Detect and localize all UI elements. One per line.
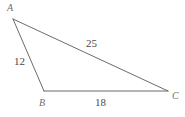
side-length-label-bc: 18 [95, 97, 106, 108]
triangle-side-ac-line [13, 19, 168, 91]
vertex-label-c: C [172, 91, 179, 101]
side-length-label-ab: 12 [14, 56, 25, 67]
triangle-figure: A B C 12 25 18 [0, 0, 185, 117]
vertex-label-a: A [7, 3, 13, 13]
vertex-label-b: B [39, 98, 45, 108]
side-length-label-ac: 25 [86, 38, 97, 49]
triangle-drawing [0, 0, 185, 117]
